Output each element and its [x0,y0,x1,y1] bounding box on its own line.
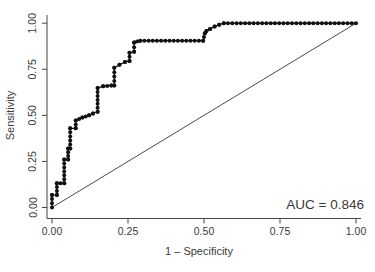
roc-data-point [96,106,100,110]
roc-data-point [299,21,303,25]
roc-data-point [213,25,217,29]
roc-data-point [226,21,230,25]
roc-data-point [320,21,324,25]
y-tick-label: 0.00 [27,197,39,218]
roc-data-point [55,181,59,185]
roc-data-point [264,21,268,25]
roc-data-point [282,21,286,25]
roc-data-point [112,70,116,74]
roc-data-point [62,169,66,173]
x-tick-label: 0.75 [270,225,291,237]
y-tick-label: 0.50 [27,105,39,126]
roc-data-point [74,122,78,126]
roc-data-point [68,134,72,138]
roc-data-point [68,138,72,142]
roc-data-point [74,126,78,130]
roc-data-point [112,66,116,70]
roc-data-point [176,39,180,43]
roc-data-point [55,189,59,193]
roc-data-point [354,21,358,25]
roc-data-point [55,185,59,189]
roc-data-point [138,39,142,43]
roc-data-point [337,21,341,25]
roc-data-point [112,79,116,83]
roc-data-point [50,193,54,197]
roc-data-point [260,21,264,25]
roc-data-point [303,21,307,25]
roc-data-point [311,21,315,25]
roc-data-point [151,39,155,43]
roc-data-point [316,21,320,25]
roc-data-point [96,94,100,98]
x-axis-title: 1 – Specificity [165,245,233,257]
roc-data-point [273,21,277,25]
roc-data-point [346,21,350,25]
roc-data-point [341,21,345,25]
roc-data-point [62,158,66,162]
roc-data-point [68,147,72,151]
roc-data-point [256,21,260,25]
roc-data-point [96,86,100,90]
roc-data-point [172,39,176,43]
reference-diagonal-line [52,23,356,207]
y-axis-title: Sensitivity [4,90,16,140]
roc-data-point [55,193,59,197]
roc-data-point [50,206,54,210]
roc-data-point [193,39,197,43]
roc-data-point [159,39,163,43]
roc-data-point [286,21,290,25]
roc-chart-figure: 0.000.250.500.751.00 0.000.250.500.751.0… [0,0,375,272]
roc-data-point [62,165,66,169]
roc-data-point [163,39,167,43]
roc-data-point [142,39,146,43]
roc-data-point [50,201,54,205]
roc-data-point [66,158,70,162]
y-tick-label: 0.25 [27,151,39,172]
roc-data-point [68,130,72,134]
roc-data-point [101,84,105,88]
roc-data-point [230,21,234,25]
roc-data-point [105,84,109,88]
roc-data-point [277,21,281,25]
roc-data-point [66,154,70,158]
roc-data-point [350,21,354,25]
y-tick-label: 0.75 [27,59,39,80]
x-tick-label: 0.50 [194,225,215,237]
roc-data-point [123,60,127,64]
y-axis-ticks: 0.000.250.500.751.00 [27,13,48,218]
roc-data-point [217,23,221,27]
x-tick-label: 0.00 [42,225,63,237]
roc-data-point [324,21,328,25]
roc-data-point [96,110,100,114]
roc-data-point [118,63,122,67]
roc-data-point [68,143,72,147]
roc-data-point [62,173,66,177]
y-tick-label: 1.00 [27,13,39,34]
roc-data-point [247,21,251,25]
roc-data-point [168,39,172,43]
roc-data-point [112,75,116,79]
roc-data-point [128,59,132,63]
roc-data-point [307,21,311,25]
roc-data-point [155,39,159,43]
roc-data-point [328,21,332,25]
roc-data-point [132,50,136,54]
roc-data-point [62,181,66,185]
roc-data-point [96,98,100,102]
roc-data-point [252,21,256,25]
roc-data-point [201,39,205,43]
x-axis-ticks: 0.000.250.500.751.00 [42,219,367,238]
roc-data-point [128,55,132,59]
roc-data-point [197,39,201,43]
roc-data-point [180,39,184,43]
roc-data-point [62,162,66,166]
roc-data-point [96,102,100,106]
roc-data-point [87,113,91,117]
roc-data-point [128,51,132,55]
roc-data-point [147,39,151,43]
roc-data-point [59,181,63,185]
roc-data-point [66,150,70,154]
roc-data-point [91,112,95,116]
roc-data-point [235,21,239,25]
roc-data-point [239,21,243,25]
